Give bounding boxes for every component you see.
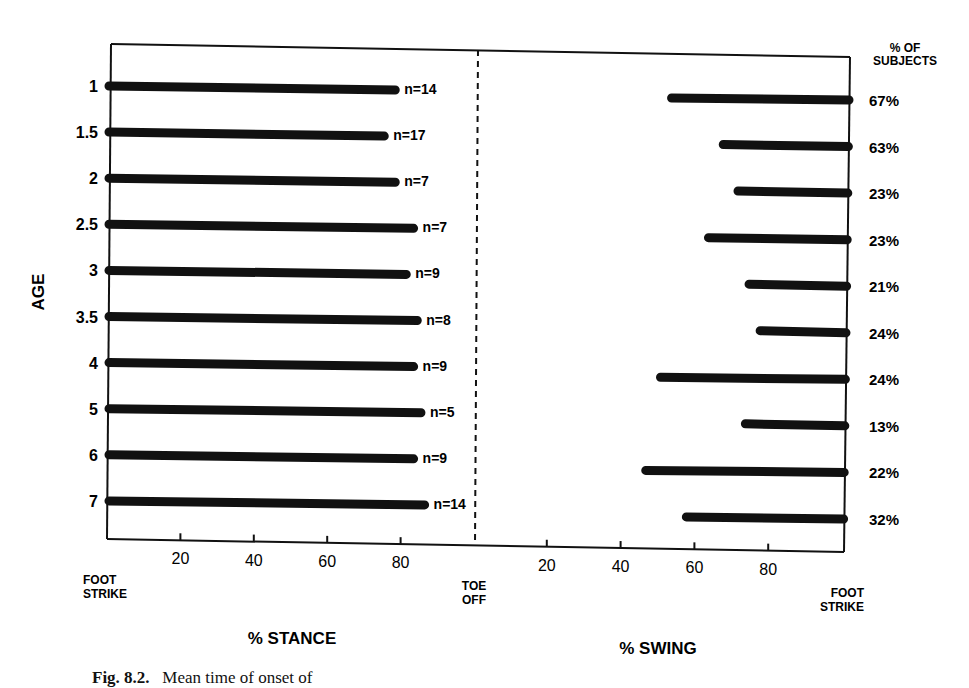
swing-bar — [760, 331, 846, 333]
foot-strike-left-1: FOOT — [83, 573, 117, 587]
n-count-label: n=17 — [393, 127, 426, 143]
age-label: 2.5 — [76, 216, 98, 233]
stance-bar — [109, 455, 414, 459]
toe-off-2: OFF — [462, 593, 486, 607]
foot-strike-left-2: STRIKE — [83, 587, 127, 601]
stance-bar — [109, 178, 395, 182]
pct-subjects-value: 21% — [869, 278, 899, 295]
swing-bar — [686, 517, 843, 519]
n-count-label: n=9 — [423, 450, 448, 466]
n-count-label: n=7 — [404, 173, 429, 189]
stance-bar — [109, 317, 417, 321]
n-count-label: n=14 — [434, 496, 467, 512]
age-label: 6 — [89, 447, 98, 464]
pct-subjects-value: 13% — [869, 418, 899, 435]
age-label: 7 — [89, 493, 98, 510]
stance-bar — [109, 270, 406, 274]
stance-tick-label: 40 — [245, 552, 263, 569]
swing-bar — [708, 238, 847, 240]
age-label: 1.5 — [76, 124, 98, 141]
pct-subjects-value: 24% — [869, 371, 899, 388]
age-label: 1 — [89, 78, 98, 95]
pct-subjects-value: 22% — [869, 464, 899, 481]
caption-label: Fig. 8.2. — [92, 668, 150, 687]
stance-bar — [109, 501, 425, 505]
stance-tick-label: 80 — [392, 554, 410, 571]
pct-subjects-header-2: SUBJECTS — [873, 54, 937, 68]
age-axis-label: AGE — [29, 274, 48, 311]
age-label: 5 — [89, 401, 98, 418]
bars-group: 1n=1467%1.5n=1763%2n=723%2.5n=723%3n=921… — [76, 78, 899, 528]
age-label: 3 — [89, 262, 98, 279]
pct-subjects-value: 23% — [869, 185, 899, 202]
swing-bar — [745, 424, 844, 426]
pct-subjects-value: 67% — [869, 92, 899, 109]
swing-axis-title: % SWING — [619, 639, 696, 658]
age-label: 2 — [89, 170, 98, 187]
stance-tick-label: 60 — [318, 553, 336, 570]
pct-subjects-value: 63% — [869, 139, 899, 156]
n-count-label: n=9 — [423, 358, 448, 374]
swing-bar — [723, 145, 848, 147]
swing-tick-label: 60 — [686, 559, 704, 576]
swing-tick-label: 20 — [538, 557, 556, 574]
stance-bar — [109, 363, 414, 367]
caption-text: Mean time of onset of — [162, 668, 312, 687]
n-count-label: n=9 — [415, 265, 440, 281]
figure-caption: Fig. 8.2. Mean time of onset of — [92, 668, 313, 688]
pct-subjects-value: 32% — [869, 511, 899, 528]
age-label: 4 — [89, 355, 98, 372]
stance-tick-label: 20 — [172, 550, 190, 567]
n-count-label: n=5 — [430, 404, 455, 420]
swing-bar — [646, 470, 844, 472]
foot-strike-right-2: STRIKE — [820, 600, 864, 614]
swing-bar — [749, 284, 847, 286]
stance-bar — [109, 409, 421, 413]
toe-off-divider — [475, 50, 478, 546]
swing-bar — [738, 191, 848, 193]
pct-subjects-value: 23% — [869, 232, 899, 249]
stance-bar — [109, 132, 384, 136]
pct-subjects-header-1: % OF — [890, 41, 921, 55]
stance-axis-title: % STANCE — [248, 629, 336, 648]
n-count-label: n=14 — [404, 81, 437, 97]
swing-bar — [661, 377, 846, 379]
foot-strike-right-1: FOOT — [831, 586, 865, 600]
n-count-label: n=8 — [426, 312, 451, 328]
toe-off-1: TOE — [462, 579, 486, 593]
stance-bar — [109, 86, 395, 90]
pct-subjects-value: 24% — [869, 325, 899, 342]
swing-tick-label: 40 — [612, 558, 630, 575]
n-count-label: n=7 — [423, 219, 448, 235]
stance-bar — [109, 224, 414, 228]
swing-tick-label: 80 — [759, 561, 777, 578]
age-label: 3.5 — [76, 309, 98, 326]
swing-bar — [672, 98, 849, 100]
